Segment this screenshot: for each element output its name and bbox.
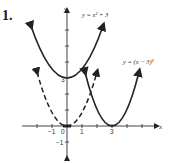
y-tick-label-3: 3	[61, 76, 65, 83]
equation-upper: y = x² + 3	[81, 11, 109, 18]
x-axis-label: x	[158, 123, 163, 131]
x-tick-label-3: 3	[110, 128, 114, 135]
graph: y x y = x² + 3 y = (x − 3)² −1 0 1 3 3 −…	[0, 0, 169, 163]
x-tick-label-0: 0	[61, 128, 65, 135]
equation-right: y = (x − 3)²	[122, 58, 155, 66]
y-tick-label-neg1: −1	[56, 139, 64, 146]
x-tick-label-neg1: −1	[48, 128, 56, 135]
x-tick-label-1: 1	[80, 128, 84, 135]
curve-x-minus-3-squared	[85, 72, 139, 126]
